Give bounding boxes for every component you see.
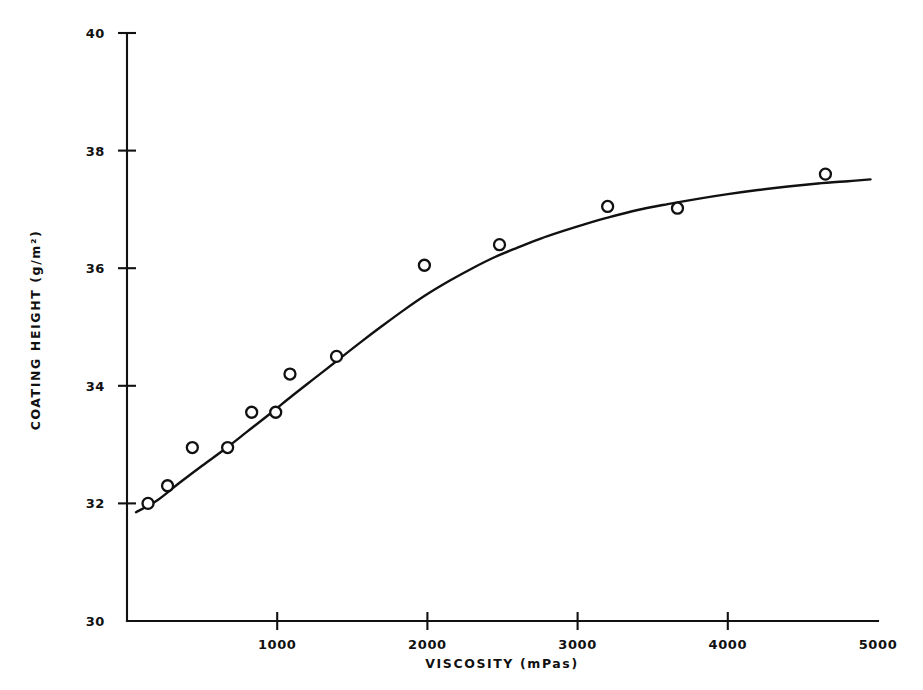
x-axis-title: VISCOSITY (mPas) (425, 656, 578, 671)
data-point-marker (187, 442, 198, 453)
x-tick-label: 2000 (408, 637, 447, 652)
y-tick-label: 32 (86, 496, 105, 511)
y-tick-label: 38 (86, 144, 105, 159)
data-point-marker (494, 239, 505, 250)
data-point-marker (602, 201, 613, 212)
y-tick-label: 30 (86, 614, 105, 629)
x-tick-label: 5000 (859, 637, 898, 652)
y-tick-label: 40 (86, 26, 105, 41)
viscosity-coating-height-scatter-plot: 303234363840 10002000300040005000 VISCOS… (0, 0, 923, 690)
data-point-marker (820, 169, 831, 180)
y-tick-label: 36 (86, 261, 105, 276)
data-point-marker (162, 480, 173, 491)
y-tick-label: 34 (86, 379, 105, 394)
data-point-marker (331, 351, 342, 362)
data-point-marker (222, 442, 233, 453)
data-point-marker (246, 407, 257, 418)
data-point-marker (419, 260, 430, 271)
data-point-marker (270, 407, 281, 418)
plot-background (0, 0, 923, 690)
y-axis-title: COATING HEIGHT (g/m²) (28, 230, 43, 431)
data-point-marker (143, 498, 154, 509)
chart-figure: 303234363840 10002000300040005000 VISCOS… (0, 0, 923, 690)
x-tick-label: 1000 (258, 637, 297, 652)
x-tick-label: 4000 (709, 637, 748, 652)
x-tick-label: 3000 (558, 637, 597, 652)
data-point-marker (672, 203, 683, 214)
data-point-marker (284, 369, 295, 380)
